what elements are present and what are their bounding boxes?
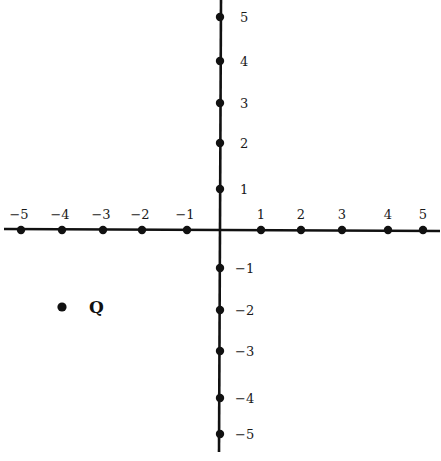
x-tick-label: 1	[257, 207, 265, 222]
y-tick-label: −2	[235, 303, 254, 318]
x-tick-dot	[99, 226, 107, 234]
y-tick-label: 4	[240, 54, 248, 69]
y-tick-dot	[216, 430, 224, 438]
y-tick-dot	[216, 185, 224, 193]
y-tick-dot	[216, 264, 224, 272]
x-tick-dot	[17, 226, 25, 234]
y-tick-dot	[216, 13, 224, 21]
x-tick-label: −1	[175, 207, 194, 222]
x-tick-label: −4	[50, 207, 69, 222]
y-tick-label: 1	[240, 182, 248, 197]
x-tick-dot	[183, 226, 191, 234]
y-tick-dot	[216, 99, 224, 107]
x-tick-dot	[257, 226, 265, 234]
y-tick-label: −4	[235, 391, 254, 406]
y-tick-dot	[216, 394, 224, 402]
y-tick-label: −1	[235, 261, 254, 276]
x-tick-label: 2	[297, 207, 305, 222]
y-axis	[219, 0, 221, 452]
x-tick-dot	[297, 226, 305, 234]
x-tick-label: 3	[338, 207, 346, 222]
y-tick-dot	[216, 57, 224, 65]
x-tick-label: 4	[384, 207, 392, 222]
x-tick-dot	[338, 226, 346, 234]
x-tick-dot	[58, 226, 66, 234]
y-tick-label: −3	[235, 344, 254, 359]
y-tick-label: 5	[240, 10, 248, 25]
y-tick-dot	[216, 306, 224, 314]
x-tick-label: −5	[9, 207, 28, 222]
y-tick-label: −5	[235, 427, 254, 442]
y-tick-label: 3	[240, 96, 248, 111]
x-tick-label: 5	[419, 207, 427, 222]
x-tick-label: −2	[130, 207, 149, 222]
x-tick-dot	[138, 226, 146, 234]
y-tick-label: 2	[240, 136, 248, 151]
point-q-dot	[57, 302, 66, 311]
coordinate-plane: −5−4−3−2−112345 54321−1−2−3−4−5 Q	[0, 0, 441, 461]
x-tick-label: −3	[91, 207, 110, 222]
y-tick-dot	[216, 347, 224, 355]
x-axis	[4, 229, 440, 231]
plotted-points: Q	[57, 297, 104, 317]
x-tick-dot	[384, 226, 392, 234]
x-tick-dot	[419, 226, 427, 234]
point-q-label: Q	[89, 297, 104, 317]
y-tick-dot	[216, 139, 224, 147]
